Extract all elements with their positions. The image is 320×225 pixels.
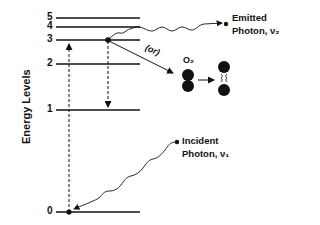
level-label-0: 0: [47, 205, 53, 216]
level-label-4: 4: [47, 20, 53, 31]
level-label-3: 3: [47, 33, 53, 44]
incident-photon-dot: [175, 140, 179, 144]
o2-label: O₂: [183, 55, 194, 65]
emitted-photon-label: Emitted Photon, ν₂: [232, 11, 280, 37]
incident-photon-line1: Incident: [182, 134, 229, 147]
level-label-2: 2: [47, 57, 53, 68]
emitted-photon-wave: [108, 23, 222, 40]
emitted-photon-dot: [224, 22, 228, 26]
ground-state-dot: [66, 209, 71, 214]
incident-photon-label: Incident Photon, ν₁: [182, 134, 229, 160]
level-label-1: 1: [47, 103, 53, 114]
y-axis-label: Energy Levels: [20, 69, 32, 144]
energy-transfer-arrow: [109, 41, 173, 73]
o2-molecule-excited: [218, 61, 230, 96]
o2-molecule-ground: [182, 69, 194, 92]
emitted-photon-line2: Photon, ν₂: [232, 24, 280, 37]
incident-photon-line2: Photon, ν₁: [182, 147, 229, 160]
emitted-photon-line1: Emitted: [232, 11, 280, 24]
incident-photon-wave: [74, 142, 176, 209]
